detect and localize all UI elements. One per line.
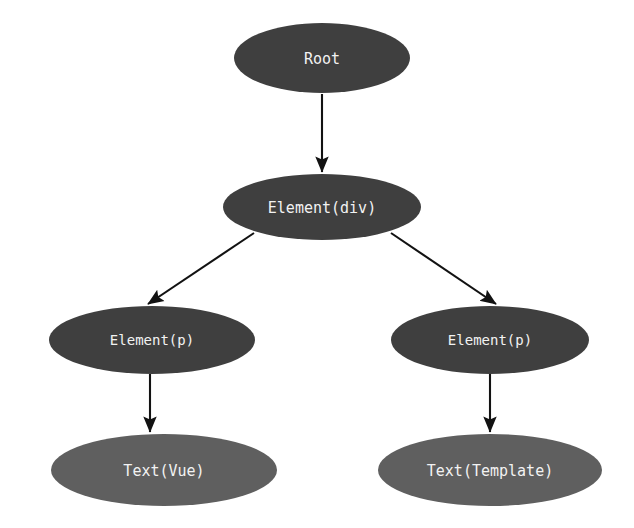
virtual-dom-tree-diagram: RootElement(div)Element(p)Element(p)Text… xyxy=(0,0,634,528)
edges-layer xyxy=(148,94,496,432)
node-label-text-template: Text(Template) xyxy=(427,462,553,480)
tree-edge-element-div-to-element-p-left xyxy=(148,233,254,304)
node-label-element-p-left: Element(p) xyxy=(110,332,194,348)
tree-node-root[interactable]: Root xyxy=(234,23,410,93)
tree-node-element-p-right[interactable]: Element(p) xyxy=(391,306,589,374)
tree-node-text-vue[interactable]: Text(Vue) xyxy=(51,434,277,506)
tree-node-element-p-left[interactable]: Element(p) xyxy=(49,306,255,374)
tree-canvas: RootElement(div)Element(p)Element(p)Text… xyxy=(0,0,634,528)
tree-edge-element-div-to-element-p-right xyxy=(391,233,496,304)
tree-node-text-template[interactable]: Text(Template) xyxy=(378,434,602,506)
node-label-element-p-right: Element(p) xyxy=(448,332,532,348)
node-label-element-div: Element(div) xyxy=(268,199,376,217)
node-label-root: Root xyxy=(304,50,340,68)
nodes-layer: RootElement(div)Element(p)Element(p)Text… xyxy=(49,23,602,506)
tree-node-element-div[interactable]: Element(div) xyxy=(223,174,421,240)
node-label-text-vue: Text(Vue) xyxy=(123,462,204,480)
